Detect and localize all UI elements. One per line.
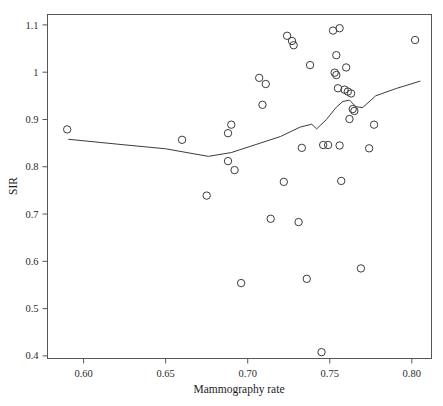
data-point-marker: [336, 142, 343, 149]
data-point-marker: [331, 69, 338, 76]
data-point-marker: [267, 215, 274, 222]
plot-canvas: 0.600.650.700.750.80 0.40.50.60.70.80.91…: [0, 0, 443, 406]
y-tick-label: 0.9: [25, 114, 38, 125]
x-axis-ticks: [84, 359, 412, 364]
data-point-marker: [280, 178, 287, 185]
data-point-marker: [231, 166, 238, 173]
data-point-marker: [336, 25, 343, 32]
data-point-marker: [228, 121, 235, 128]
plot-frame: [48, 15, 432, 359]
y-tick-label: 1: [33, 67, 38, 78]
y-tick-label: 0.7: [25, 209, 38, 220]
y-tick-label: 1.1: [25, 20, 38, 31]
x-axis-title: Mammography rate: [193, 383, 284, 396]
data-point-marker: [255, 74, 262, 81]
data-point-marker: [333, 71, 340, 78]
data-point-marker: [237, 279, 244, 286]
data-point-marker: [178, 136, 185, 143]
y-tick-label: 0.6: [25, 256, 38, 267]
y-axis-ticks: [43, 25, 48, 356]
y-tick-label: 0.8: [25, 161, 38, 172]
data-point-marker: [298, 144, 305, 151]
data-point-group: [63, 25, 418, 356]
x-tick-label: 0.70: [239, 368, 257, 379]
data-point-marker: [63, 126, 70, 133]
data-point-marker: [346, 115, 353, 122]
x-tick-label: 0.75: [321, 368, 339, 379]
data-point-marker: [324, 141, 331, 148]
y-axis-title: SIR: [7, 177, 19, 195]
data-point-marker: [295, 218, 302, 225]
data-point-marker: [224, 157, 231, 164]
y-axis-tick-labels: 0.40.50.60.70.80.911.1: [25, 20, 39, 362]
data-point-marker: [318, 348, 325, 355]
data-point-marker: [224, 129, 231, 136]
data-point-marker: [351, 107, 358, 114]
data-point-marker: [333, 51, 340, 58]
x-tick-label: 0.65: [156, 368, 174, 379]
data-point-marker: [203, 192, 210, 199]
x-axis-tick-labels: 0.600.650.700.750.80: [74, 368, 421, 379]
data-point-marker: [411, 36, 418, 43]
data-point-marker: [370, 121, 377, 128]
data-point-marker: [357, 265, 364, 272]
data-point-marker: [262, 80, 269, 87]
data-point-marker: [288, 37, 295, 44]
data-point-marker: [349, 105, 356, 112]
y-tick-label: 0.4: [25, 350, 39, 361]
data-point-marker: [259, 101, 266, 108]
data-point-marker: [290, 42, 297, 49]
x-tick-label: 0.80: [403, 368, 421, 379]
data-point-marker: [342, 64, 349, 71]
y-tick-label: 0.5: [25, 303, 38, 314]
x-tick-label: 0.60: [74, 368, 92, 379]
scatter-plot-figure: 0.600.650.700.750.80 0.40.50.60.70.80.91…: [0, 0, 443, 406]
data-point-marker: [306, 61, 313, 68]
data-point-marker: [365, 145, 372, 152]
data-point-marker: [338, 177, 345, 184]
data-point-marker: [303, 275, 310, 282]
